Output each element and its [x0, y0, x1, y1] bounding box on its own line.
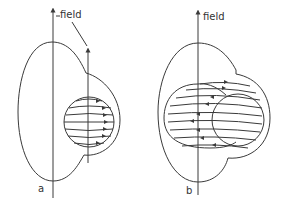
panel-a	[18, 10, 120, 198]
field-label-a: field	[60, 10, 82, 20]
flow-lines-b	[168, 82, 262, 148]
panel-b	[158, 12, 270, 195]
diagram	[0, 0, 281, 211]
panel-label-a: a	[38, 184, 44, 194]
field-label-b: field	[203, 12, 225, 22]
outer-boundary-a	[18, 42, 120, 181]
panel-label-b: b	[186, 186, 192, 196]
label-leader	[72, 22, 87, 46]
